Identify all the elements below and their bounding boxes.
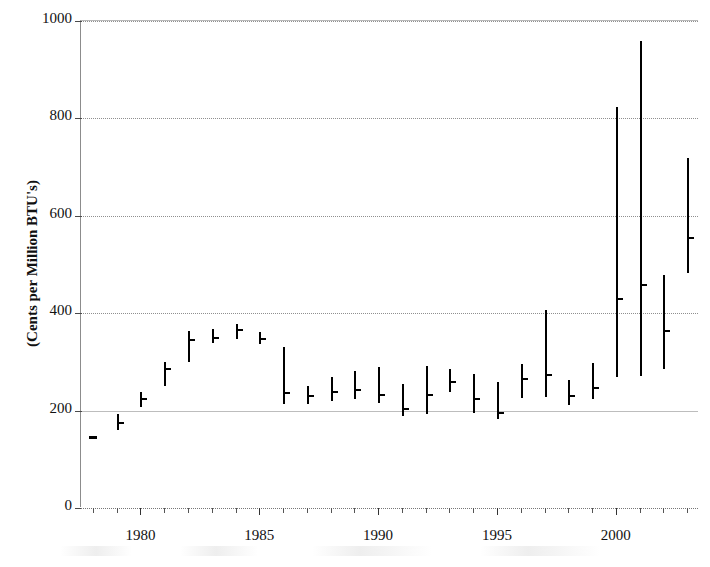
ohlc-close-tick [664, 330, 670, 332]
y-gridline [81, 118, 698, 119]
x-axis-major-tick [378, 508, 379, 515]
ohlc-close-tick [593, 387, 599, 389]
x-axis-label: 1985 [224, 527, 294, 544]
x-axis-major-tick [140, 508, 141, 515]
x-axis-minor-tick [402, 508, 403, 513]
x-axis-major-tick [259, 508, 260, 515]
ohlc-bar [354, 371, 356, 399]
y-axis-tick [75, 411, 82, 412]
ohlc-close-tick [546, 374, 552, 376]
ohlc-close-tick [403, 408, 409, 410]
ohlc-close-tick [165, 368, 171, 370]
x-axis-major-tick [497, 508, 498, 515]
ohlc-close-tick [189, 339, 195, 341]
y-axis-tick [75, 216, 82, 217]
ohlc-close-tick [498, 412, 504, 414]
x-axis-line [81, 508, 698, 509]
y-axis-tick [75, 313, 82, 314]
ohlc-bar [687, 158, 689, 273]
y-axis-tick [75, 118, 82, 119]
x-axis-minor-tick [93, 508, 94, 513]
x-axis-minor-tick [236, 508, 237, 513]
x-axis-minor-tick [426, 508, 427, 513]
ohlc-close-tick [118, 422, 124, 424]
ohlc-close-tick [213, 337, 219, 339]
ohlc-bar [164, 362, 166, 386]
y-axis-label: 600 [6, 205, 72, 222]
y-gridline [81, 216, 698, 217]
ohlc-close-tick [332, 391, 338, 393]
y-axis-label: 800 [6, 107, 72, 124]
ohlc-close-tick [308, 395, 314, 397]
ohlc-close-tick [522, 378, 528, 380]
ohlc-close-tick [427, 394, 433, 396]
x-axis-minor-tick [331, 508, 332, 513]
ohlc-bar [568, 380, 570, 404]
ohlc-close-tick [237, 329, 243, 331]
ohlc-close-tick [260, 338, 266, 340]
ohlc-close-tick [569, 395, 575, 397]
y-axis-label: 200 [6, 400, 72, 417]
y-gridline [81, 21, 698, 22]
y-axis-label: 1000 [6, 10, 72, 27]
x-axis-major-tick [616, 508, 617, 515]
ohlc-bar [473, 374, 475, 413]
ohlc-bar [592, 363, 594, 399]
page-caption-artifact [60, 546, 660, 556]
ohlc-bar [616, 107, 618, 378]
x-axis-minor-tick [212, 508, 213, 513]
chart-container: (Cents per Million BTU's) 02004006008001… [0, 0, 710, 567]
ohlc-bar [331, 377, 333, 400]
ohlc-close-tick [617, 298, 623, 300]
x-axis-minor-tick [687, 508, 688, 513]
y-axis-label: 400 [6, 302, 72, 319]
x-axis-minor-tick [545, 508, 546, 513]
x-axis-minor-tick [354, 508, 355, 513]
ohlc-close-tick [355, 389, 361, 391]
y-gridline [81, 313, 698, 314]
x-axis-minor-tick [164, 508, 165, 513]
ohlc-bar [89, 436, 97, 439]
ohlc-close-tick [379, 394, 385, 396]
x-axis-label: 1980 [105, 527, 175, 544]
x-axis-minor-tick [188, 508, 189, 513]
x-axis-label: 1990 [343, 527, 413, 544]
ohlc-close-tick [688, 237, 694, 239]
ohlc-close-tick [450, 381, 456, 383]
x-axis-minor-tick [663, 508, 664, 513]
ohlc-bar [402, 384, 404, 416]
ohlc-bar [378, 367, 380, 403]
x-axis-minor-tick [592, 508, 593, 513]
ohlc-bar [663, 275, 665, 369]
ohlc-bar [545, 310, 547, 397]
y-gridline [81, 411, 698, 412]
x-axis-minor-tick [473, 508, 474, 513]
x-axis-label: 2000 [581, 527, 651, 544]
ohlc-bar [497, 382, 499, 419]
x-axis-label: 1995 [462, 527, 532, 544]
ohlc-bar [188, 331, 190, 362]
ohlc-close-tick [141, 398, 147, 400]
x-axis-minor-tick [117, 508, 118, 513]
ohlc-bar [426, 366, 428, 414]
x-axis-minor-tick [640, 508, 641, 513]
x-axis-minor-tick [307, 508, 308, 513]
ohlc-bar [521, 364, 523, 398]
x-axis-minor-tick [568, 508, 569, 513]
ohlc-bar [640, 41, 642, 375]
x-axis-minor-tick [283, 508, 284, 513]
y-axis-label: 0 [6, 497, 72, 514]
ohlc-close-tick [641, 284, 647, 286]
plot-area: 19801985199019952000 [80, 20, 698, 507]
y-axis-tick [75, 21, 82, 22]
ohlc-bar [236, 324, 238, 339]
x-axis-minor-tick [449, 508, 450, 513]
x-axis-minor-tick [521, 508, 522, 513]
ohlc-close-tick [474, 398, 480, 400]
ohlc-bar [283, 347, 285, 403]
ohlc-close-tick [284, 392, 290, 394]
